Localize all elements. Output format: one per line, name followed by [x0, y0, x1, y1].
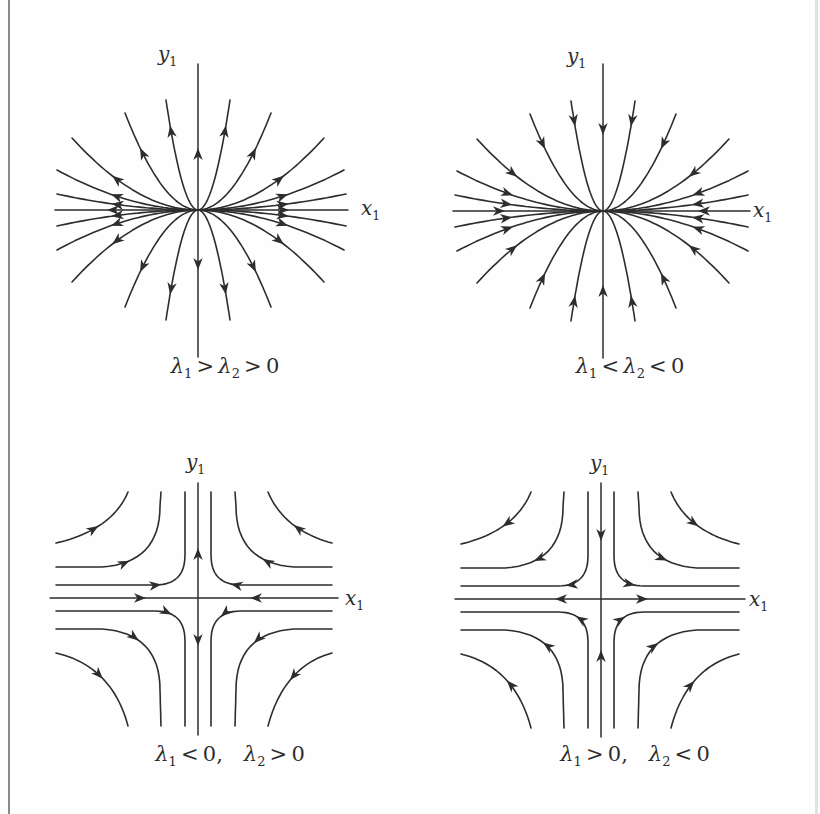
x-axis-label: x1 [753, 200, 772, 220]
x-axis-label: x1 [361, 198, 380, 218]
eigenvalue-caption-unstable-node: λ1 > λ2 > 0 [60, 353, 390, 379]
x-axis-label: x1 [749, 589, 768, 609]
page-right-border-line [815, 0, 818, 814]
phase-portrait-saddle-y-stable [425, 452, 803, 744]
eigenvalue-caption-stable-node: λ1 < λ2 < 0 [465, 353, 795, 379]
y-axis-label: y1 [186, 452, 205, 472]
phase-portrait-unstable-node [20, 38, 398, 368]
x-axis-label: x1 [345, 588, 364, 608]
eigenvalue-caption-saddle-x: λ1 < 0, λ2 > 0 [65, 741, 395, 767]
y-axis-label: y1 [158, 44, 177, 64]
page-left-border-line [8, 0, 10, 814]
phase-portrait-stable-node [425, 38, 803, 368]
eigenvalue-caption-saddle-y: λ1 > 0, λ2 < 0 [470, 741, 800, 767]
y-axis-label: y1 [567, 46, 586, 66]
y-axis-label: y1 [590, 453, 609, 473]
phase-portrait-saddle-x-stable [20, 452, 398, 744]
book-page: y1 x1 λ1 > λ2 > 0 y1 x1 λ1 < λ2 < 0 y1 x… [0, 0, 820, 814]
